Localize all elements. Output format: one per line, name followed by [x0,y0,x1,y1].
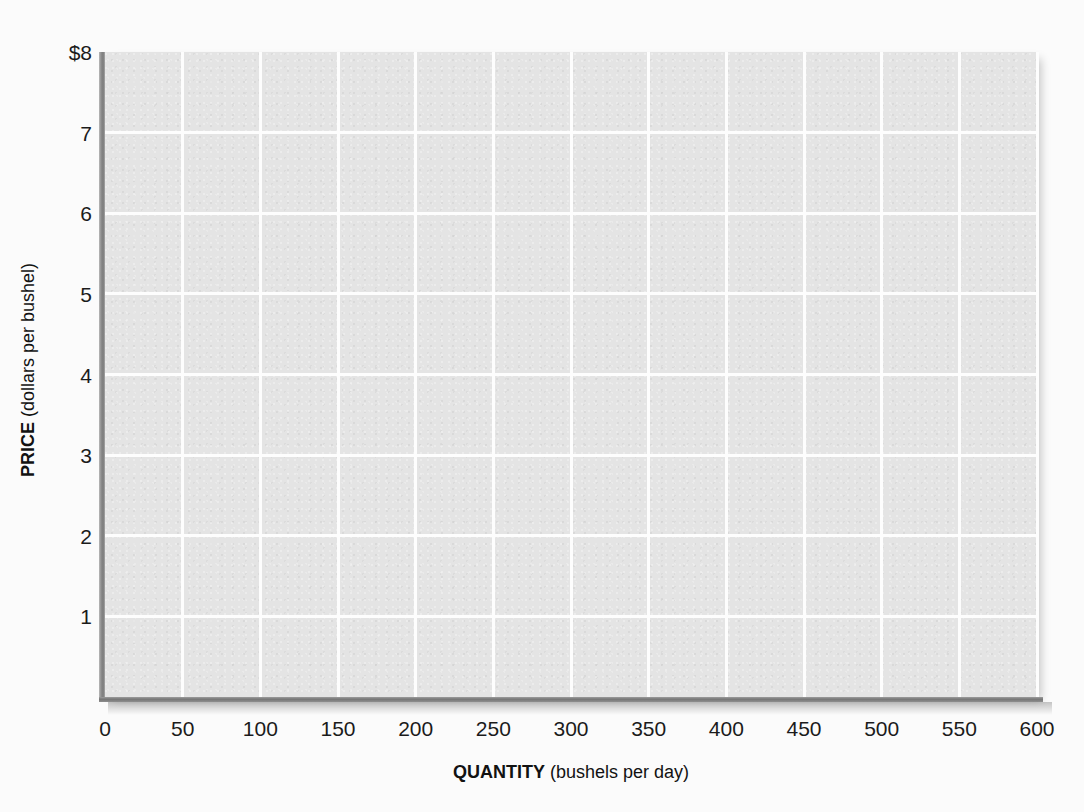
x-tick-label: 150 [293,718,383,739]
x-tick-label: 50 [138,718,228,739]
plot-area [105,52,1037,697]
y-axis-tick-labels: $87654321 [0,0,92,812]
x-tick-label: 550 [914,718,1004,739]
y-tick-label: 2 [2,525,92,546]
y-tick-label: 3 [2,445,92,466]
x-tick-label: 100 [215,718,305,739]
x-tick-label: 600 [992,718,1082,739]
y-tick-label: 5 [2,283,92,304]
x-tick-label: 200 [371,718,461,739]
gridline-horizontal [105,534,1037,537]
gridline-horizontal [105,615,1037,618]
chart-figure: $87654321 050100150200250300350400450500… [0,0,1084,812]
x-tick-label: 400 [681,718,771,739]
gridline-horizontal [105,292,1037,295]
x-tick-label: 450 [759,718,849,739]
x-tick-label: 250 [448,718,538,739]
y-tick-label: $8 [2,42,92,63]
x-tick-label: 500 [837,718,927,739]
x-axis-title: QUANTITY (bushels per day) [453,762,689,783]
gridline-horizontal [105,373,1037,376]
y-axis-title: PRICE (dollars per bushel) [18,263,39,477]
y-tick-label: 7 [2,122,92,143]
gridline-horizontal [105,454,1037,457]
gridline-horizontal [105,131,1037,134]
x-axis-title-strong: QUANTITY [453,762,545,782]
x-tick-label: 300 [526,718,616,739]
y-axis-title-strong: PRICE [18,422,38,477]
y-axis-title-rest: (dollars per bushel) [18,263,38,422]
y-tick-label: 4 [2,364,92,385]
x-axis-shadow [108,702,1052,715]
x-tick-label: 0 [60,718,150,739]
y-tick-label: 1 [2,606,92,627]
x-axis-title-rest: (bushels per day) [545,762,689,782]
x-tick-label: 350 [604,718,694,739]
gridline-horizontal [105,212,1037,215]
y-tick-label: 6 [2,203,92,224]
